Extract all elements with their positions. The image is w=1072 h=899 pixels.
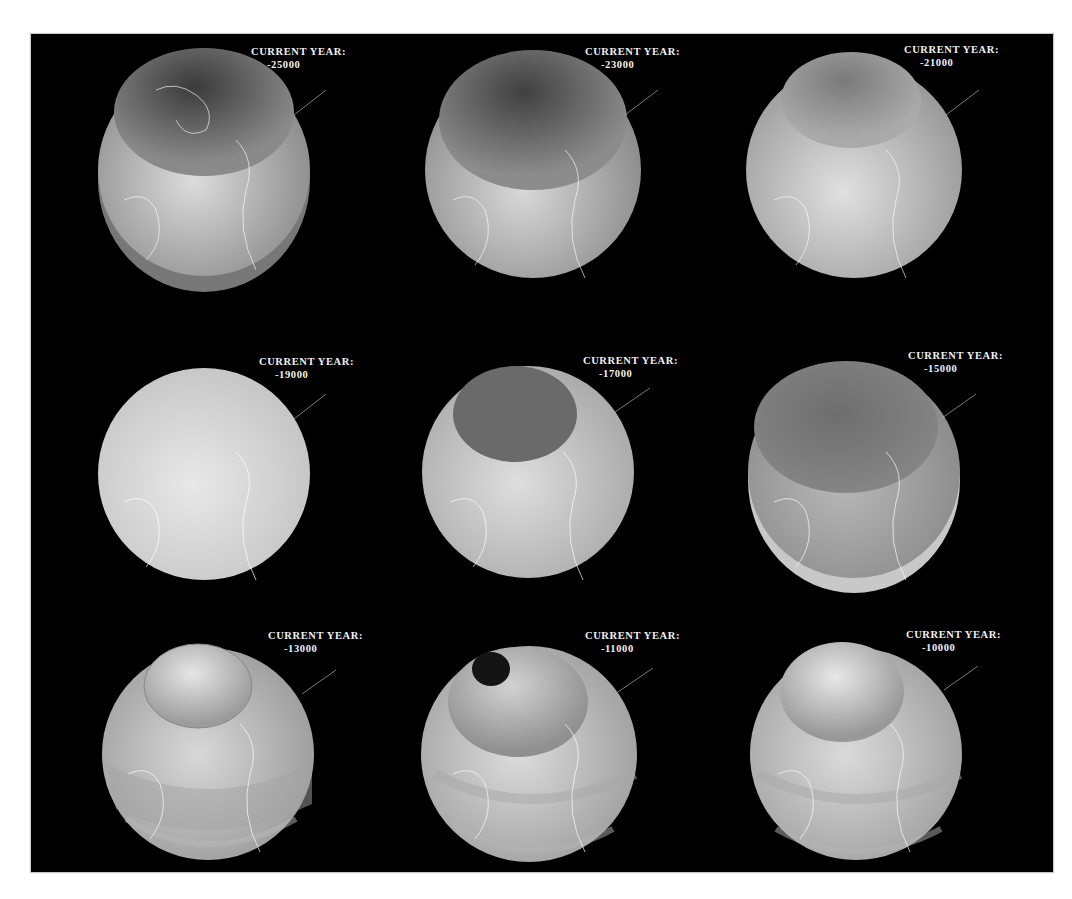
current-year-label: CURRENT YEAR: -19000 (259, 355, 354, 381)
year-value: -23000 (585, 58, 680, 71)
year-value: -13000 (268, 642, 363, 655)
globe-icon (86, 624, 416, 899)
globe-icon (86, 352, 416, 627)
year-value: -25000 (251, 58, 346, 71)
globe-grid-figure: CURRENT YEAR: -25000 CURRENT YEAR: -2300… (31, 34, 1053, 872)
globe-panel-8: CURRENT YEAR: -11000 (413, 624, 743, 899)
current-year-label: CURRENT YEAR: -13000 (268, 629, 363, 655)
current-year-label: CURRENT YEAR: -10000 (906, 628, 1001, 654)
globe-panel-6: CURRENT YEAR: -15000 (736, 352, 1066, 627)
globe-panel-5: CURRENT YEAR: -17000 (413, 352, 743, 627)
globe-panel-2: CURRENT YEAR: -23000 (413, 40, 743, 315)
current-year-label: CURRENT YEAR: -11000 (585, 629, 680, 655)
globe-panel-4: CURRENT YEAR: -19000 (86, 352, 416, 627)
current-year-label: CURRENT YEAR: -25000 (251, 45, 346, 71)
current-year-label: CURRENT YEAR: -23000 (585, 45, 680, 71)
globe-icon (413, 624, 743, 899)
current-year-label: CURRENT YEAR: -21000 (904, 43, 999, 69)
year-value: -15000 (908, 362, 1003, 375)
globe-icon (413, 352, 743, 627)
globe-panel-1: CURRENT YEAR: -25000 (86, 40, 416, 315)
globe-icon (736, 624, 1066, 899)
globe-icon (413, 40, 743, 315)
year-value: -10000 (906, 641, 1001, 654)
year-value: -11000 (585, 642, 680, 655)
globe-panel-3: CURRENT YEAR: -21000 (736, 40, 1066, 315)
globe-icon (736, 352, 1066, 627)
year-value: -19000 (259, 368, 354, 381)
current-year-label: CURRENT YEAR: -15000 (908, 349, 1003, 375)
year-value: -21000 (904, 56, 999, 69)
globe-icon (86, 40, 416, 315)
current-year-label: CURRENT YEAR: -17000 (583, 354, 678, 380)
globe-panel-7: CURRENT YEAR: -13000 (86, 624, 416, 899)
year-value: -17000 (583, 367, 678, 380)
globe-icon (736, 40, 1066, 315)
globe-panel-9: CURRENT YEAR: -10000 (736, 624, 1066, 899)
